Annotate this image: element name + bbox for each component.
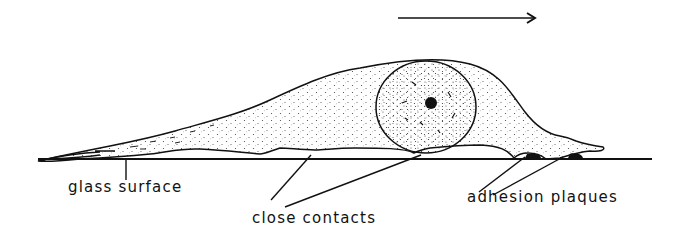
label-adhesion-plaques: adhesion plaques bbox=[467, 190, 618, 205]
label-glass-surface: glass surface bbox=[68, 180, 182, 195]
nucleolus bbox=[425, 97, 437, 109]
direction-arrow-icon bbox=[398, 13, 535, 23]
cell-body bbox=[38, 60, 604, 162]
nucleus bbox=[376, 61, 476, 153]
label-close-contacts: close contacts bbox=[252, 211, 376, 226]
